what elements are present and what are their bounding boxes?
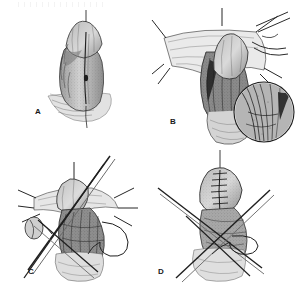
panel-a-label: A	[35, 108, 41, 116]
scan-artifact	[18, 2, 104, 7]
figure-sheet: A	[0, 0, 302, 295]
panel-c	[18, 150, 148, 282]
panel-c-label: C	[28, 268, 34, 276]
panel-d-label: D	[158, 268, 164, 276]
panel-b-label: B	[170, 118, 176, 126]
panel-a	[26, 10, 146, 130]
panel-d	[158, 150, 298, 282]
magnified-inset	[234, 82, 294, 142]
panel-a-meatus	[84, 75, 88, 82]
panel-b	[152, 8, 298, 148]
